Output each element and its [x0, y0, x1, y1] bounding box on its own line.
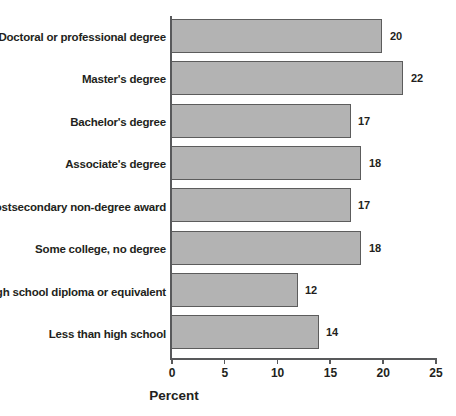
x-axis-tick-label: 15	[324, 366, 337, 380]
category-label: Doctoral or professional degree	[0, 31, 166, 43]
category-label: Master's degree	[82, 73, 166, 85]
x-axis-tick	[171, 358, 173, 364]
bar-value-label: 20	[390, 30, 402, 42]
x-axis-tick	[435, 358, 437, 364]
bar-some-college-no-degree	[171, 231, 361, 265]
category-label: Some college, no degree	[35, 243, 166, 255]
x-axis-tick-label: 20	[377, 366, 390, 380]
category-label: High school diploma or equivalent	[0, 286, 166, 298]
x-axis-tick-label: 10	[271, 366, 284, 380]
category-label: Postsecondary non-degree award	[0, 201, 166, 213]
bar-value-label: 17	[358, 199, 370, 211]
bar-chart: Doctoral or professional degree Master's…	[0, 0, 456, 416]
bar-high-school-diploma-or-equivalent	[171, 273, 298, 307]
bar-less-than-high-school	[171, 315, 319, 349]
x-axis-line	[170, 358, 437, 360]
x-axis-tick	[224, 358, 226, 364]
plot-area: 20 22 17 18 17 18 12 14	[171, 18, 436, 358]
bar-masters-degree	[171, 61, 403, 95]
y-axis-line	[170, 16, 172, 360]
bar-doctoral-or-professional-degree	[171, 19, 382, 53]
bar-value-label: 18	[369, 157, 381, 169]
x-axis-title: Percent	[149, 388, 199, 404]
x-axis-tick	[329, 358, 331, 364]
bar-associates-degree	[171, 146, 361, 180]
x-axis-tick-label: 0	[169, 366, 176, 380]
category-label: Less than high school	[49, 328, 166, 340]
x-axis-tick-label: 5	[221, 366, 228, 380]
category-label: Associate's degree	[65, 158, 166, 170]
bar-value-label: 18	[369, 242, 381, 254]
bar-postsecondary-non-degree-award	[171, 188, 351, 222]
category-label: Bachelor's degree	[70, 116, 166, 128]
bar-bachelors-degree	[171, 104, 351, 138]
bar-value-label: 22	[411, 72, 423, 84]
x-axis-tick	[382, 358, 384, 364]
bar-value-label: 12	[305, 284, 317, 296]
x-axis-tick	[277, 358, 279, 364]
bar-value-label: 14	[326, 326, 338, 338]
bar-value-label: 17	[358, 115, 370, 127]
x-axis-tick-label: 25	[429, 366, 442, 380]
